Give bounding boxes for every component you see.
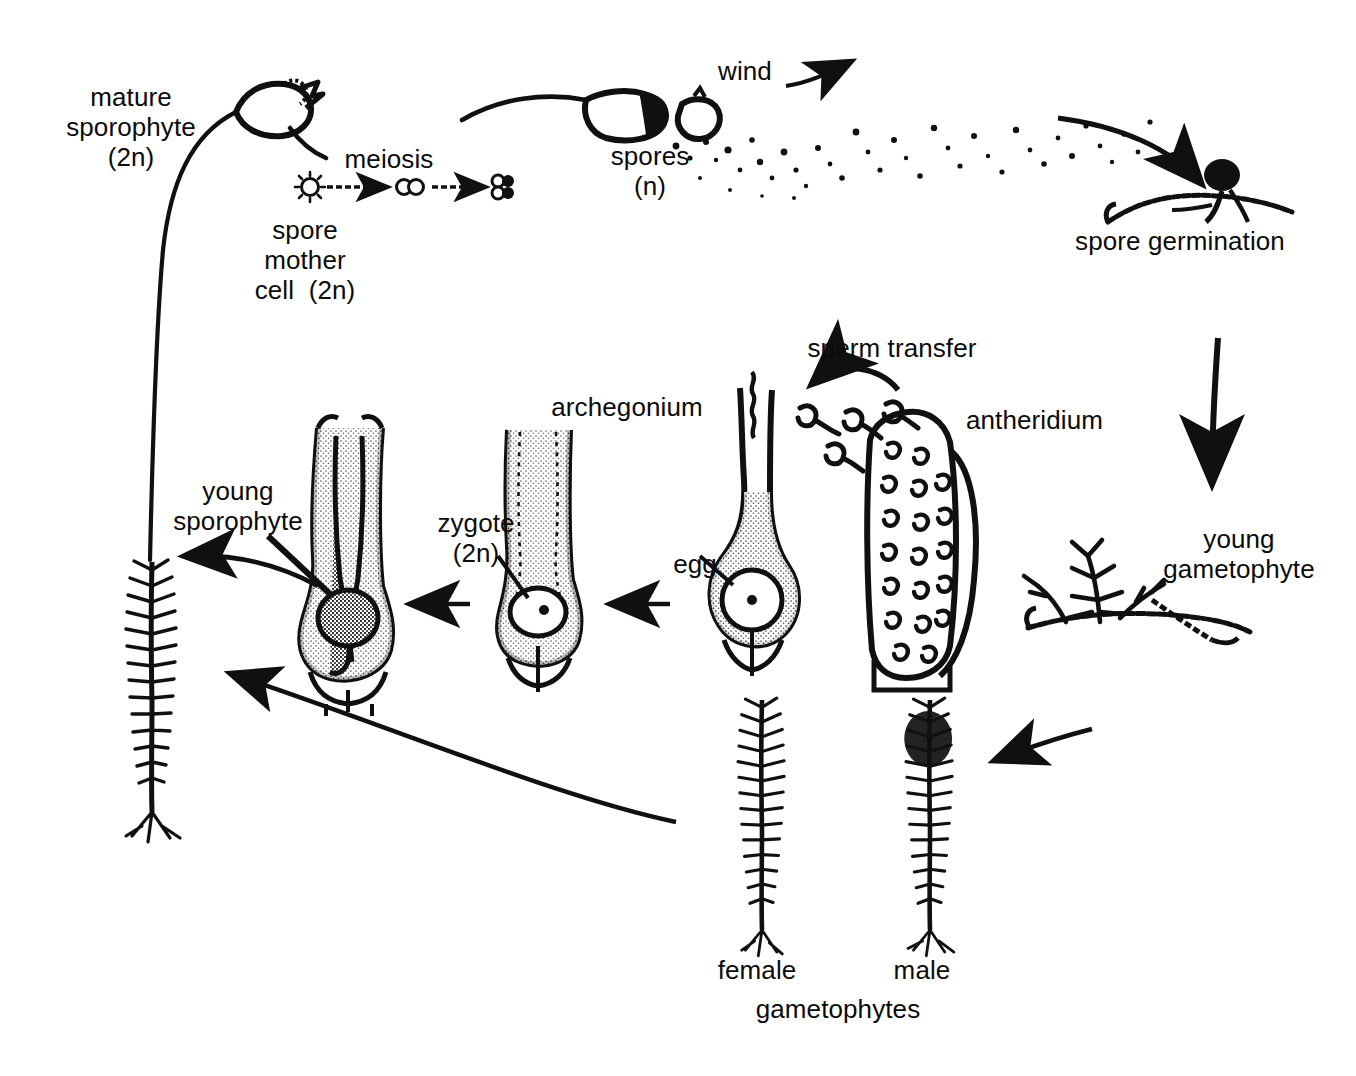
moss-life-cycle-diagram: mature sporophyte (2n) meiosis spore mot… (0, 0, 1356, 1076)
meiosis-two-cell-glyph (397, 180, 424, 195)
label-wind: wind (718, 56, 772, 86)
label-antheridium: antheridium (966, 405, 1103, 435)
label-spore-mother-cell: spore mother cell (2n) (255, 215, 356, 305)
label-spore-germination: spore germination (1075, 226, 1285, 256)
spore-mother-cell-glyph (295, 172, 325, 202)
label-zygote: zygote (2n) (437, 508, 514, 568)
label-male: male (894, 955, 951, 985)
label-spores: spores (n) (611, 141, 690, 201)
label-meiosis: meiosis (345, 144, 434, 174)
label-mature-sporophyte: mature sporophyte (2n) (66, 82, 196, 172)
young-sporophyte-glyph (300, 416, 392, 716)
label-sperm-transfer: sperm transfer (807, 333, 976, 363)
label-egg: egg (673, 549, 717, 579)
label-young-gametophyte: young gametophyte (1163, 524, 1314, 584)
label-young-sporophyte: young sporophyte (173, 476, 303, 536)
label-gametophytes: gametophytes (756, 994, 921, 1024)
label-archegonium: archegonium (551, 392, 702, 422)
label-female: female (718, 955, 797, 985)
